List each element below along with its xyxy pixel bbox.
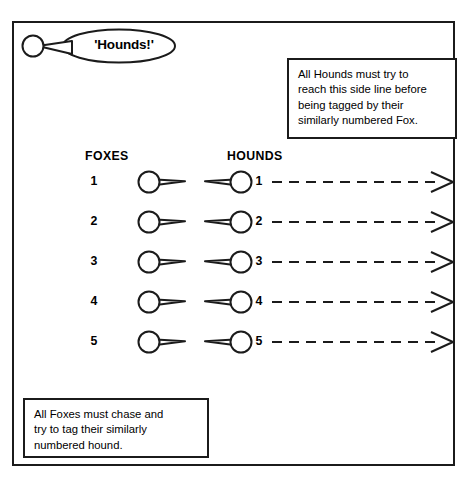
diagram-canvas: 'Hounds!' FOXES HOUNDS 1 1 2: [0, 0, 471, 478]
hound-number-label: 2: [251, 213, 267, 229]
dashed-arrow-right-icon: [270, 210, 455, 234]
hound-player-icon: [196, 329, 254, 355]
hound-number-label: 1: [251, 173, 267, 189]
fox-number-label: 4: [86, 293, 102, 309]
hounds-instruction-note: All Hounds must try to reach this side l…: [287, 58, 457, 139]
hound-player-icon: [196, 249, 254, 275]
fox-player-icon: [136, 289, 194, 315]
hound-player-icon: [196, 209, 254, 235]
fox-number-label: 3: [86, 253, 102, 269]
fox-player-icon: [136, 329, 194, 355]
pairing-row: 2 2: [0, 206, 471, 238]
player-head-circle-icon: [23, 36, 44, 57]
hound-player-icon: [196, 289, 254, 315]
foxes-instruction-note: All Foxes must chase and try to tag thei…: [23, 398, 209, 458]
hound-player-icon: [196, 169, 254, 195]
pairing-row: 4 4: [0, 286, 471, 318]
fox-player-icon: [136, 209, 194, 235]
hound-number-label: 5: [251, 333, 267, 349]
dashed-arrow-right-icon: [270, 290, 455, 314]
fox-number-label: 5: [86, 333, 102, 349]
fox-number-label: 1: [86, 173, 102, 189]
dashed-arrow-right-icon: [270, 250, 455, 274]
fox-player-icon: [136, 249, 194, 275]
column-heading-foxes: FOXES: [85, 149, 129, 163]
caller-shout-group: 'Hounds!': [20, 27, 180, 65]
fox-player-icon: [136, 169, 194, 195]
column-heading-hounds: HOUNDS: [227, 149, 283, 163]
pairing-row: 5 5: [0, 326, 471, 358]
cropped-caption-sliver: [8, 0, 208, 9]
dashed-arrow-right-icon: [270, 330, 455, 354]
hound-number-label: 4: [251, 293, 267, 309]
fox-number-label: 2: [86, 213, 102, 229]
pairing-row: 1 1: [0, 166, 471, 198]
shout-text: 'Hounds!': [76, 36, 172, 54]
hound-number-label: 3: [251, 253, 267, 269]
pairing-row: 3 3: [0, 246, 471, 278]
dashed-arrow-right-icon: [270, 170, 455, 194]
